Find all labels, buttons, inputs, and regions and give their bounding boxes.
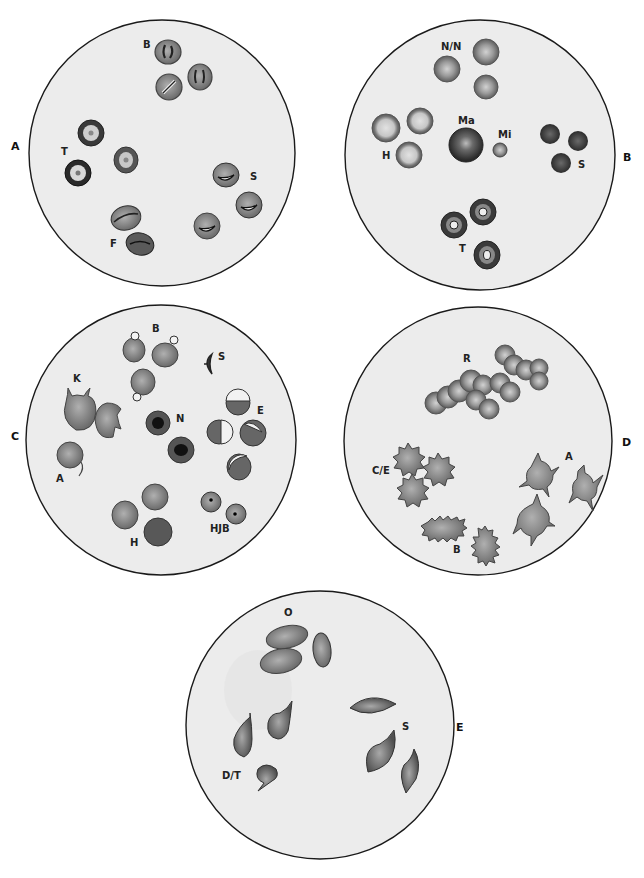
label-b-h: H (382, 150, 390, 161)
label-e-s: S (402, 721, 409, 732)
panel-c: B S K N E A H HJB (26, 305, 296, 575)
label-b-t: T (459, 243, 466, 254)
label-c-s: S (218, 351, 225, 362)
label-d-ce: C/E (372, 465, 390, 476)
label-c-e: E (257, 405, 264, 416)
panel-label-d: D (622, 436, 631, 449)
panel-d: R C/E A B (344, 307, 612, 575)
label-c-h: H (130, 537, 138, 548)
panel-label-b: B (623, 151, 631, 164)
label-d-a: A (565, 451, 573, 462)
panel-b: N/N H Ma Mi S T (345, 20, 615, 290)
label-a-b: B (143, 39, 151, 50)
label-a-t: T (61, 146, 68, 157)
label-b-s: S (578, 159, 585, 170)
cell-group-b-mi (493, 143, 507, 157)
panel-e: O S D/T (186, 591, 454, 859)
panel-label-c: C (11, 430, 19, 443)
panel-label-e: E (456, 721, 464, 734)
label-e-dt: D/T (222, 770, 241, 781)
label-c-b: B (152, 323, 160, 334)
label-d-r: R (463, 353, 471, 364)
cell-group-b-ma (449, 128, 483, 162)
figure: B T S F (0, 0, 644, 878)
label-a-s: S (250, 171, 257, 182)
label-c-n: N (176, 413, 184, 424)
label-b-ma: Ma (458, 115, 475, 126)
figure-canvas: B T S F (0, 0, 644, 878)
label-d-b: B (453, 544, 461, 555)
panel-a: B T S F (29, 20, 295, 286)
microscope-field-e (186, 591, 454, 859)
label-c-k: K (73, 373, 82, 384)
label-a-f: F (110, 238, 117, 249)
label-c-hjb: HJB (210, 523, 230, 534)
label-b-nn: N/N (441, 41, 461, 52)
microscope-field-d (344, 307, 612, 575)
label-e-o: O (284, 607, 293, 618)
panel-label-a: A (11, 140, 20, 153)
label-b-mi: Mi (498, 129, 511, 140)
label-c-a: A (56, 473, 64, 484)
